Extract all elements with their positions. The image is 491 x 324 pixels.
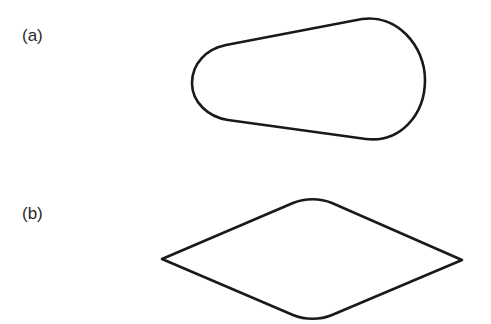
panel-a-shape	[192, 18, 425, 139]
figure-canvas	[0, 0, 491, 324]
panel-b-shape	[162, 199, 462, 319]
